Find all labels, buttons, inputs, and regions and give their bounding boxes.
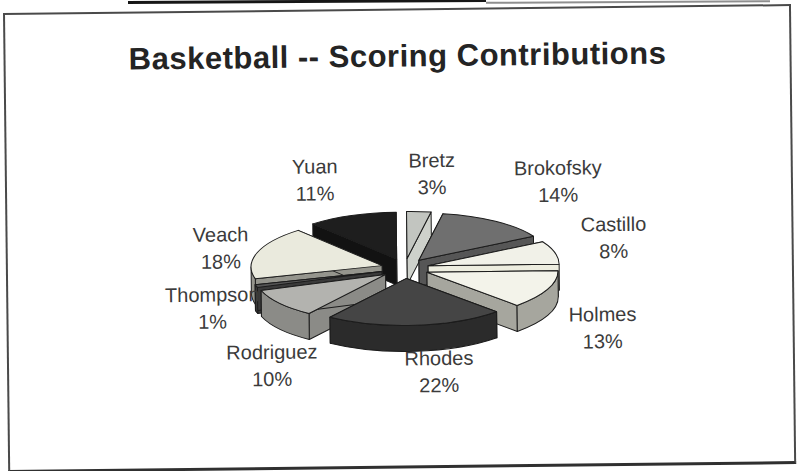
slice-label-name: Rodriguez [226, 338, 317, 366]
slice-label-brokofsky: Brokofsky14% [514, 154, 602, 209]
slice-label-percent: 14% [514, 181, 602, 209]
slice-label-percent: 13% [569, 328, 637, 356]
slice-label-name: Veach [193, 221, 249, 249]
slice-label-holmes: Holmes13% [568, 301, 636, 356]
slice-label-percent: 11% [292, 180, 338, 208]
chart-frame: Basketball -- Scoring Contributions Bret… [3, 4, 796, 471]
slice-label-percent: 1% [165, 308, 260, 336]
slice-label-name: Bretz [408, 147, 455, 175]
pie-3d-chart [5, 6, 798, 471]
slice-label-name: Brokofsky [514, 154, 602, 182]
slice-label-percent: 8% [581, 238, 647, 266]
scan-artifact-line-dark [128, 0, 486, 4]
slice-label-percent: 22% [405, 372, 474, 400]
slice-label-name: Yuan [292, 153, 338, 181]
slice-label-percent: 18% [193, 248, 249, 276]
slice-label-name: Holmes [568, 301, 636, 329]
slice-label-yuan: Yuan11% [292, 153, 338, 208]
slice-label-percent: 3% [409, 174, 456, 202]
slice-label-veach: Veach18% [193, 221, 249, 276]
slice-label-thompson: Thompson1% [165, 281, 260, 336]
slice-label-rodriguez: Rodriguez10% [226, 338, 318, 393]
slice-label-name: Thompson [165, 281, 260, 309]
slice-label-name: Castillo [580, 211, 646, 239]
slice-label-rhodes: Rhodes22% [404, 345, 474, 400]
slice-label-percent: 10% [226, 365, 317, 393]
scanned-figure-page: Basketball -- Scoring Contributions Bret… [0, 0, 798, 471]
scan-artifact-line-faint [486, 0, 770, 4]
slice-label-bretz: Bretz3% [408, 147, 455, 202]
slice-label-castillo: Castillo8% [580, 211, 646, 266]
slice-label-name: Rhodes [404, 345, 473, 373]
